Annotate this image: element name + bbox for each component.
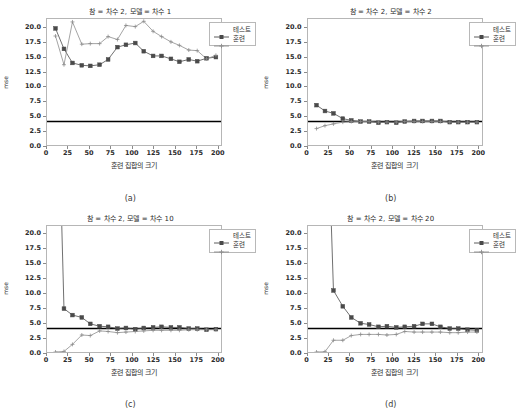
- x-tick-mark: [218, 353, 219, 356]
- x-tick-label: 50: [84, 149, 93, 157]
- x-tick-label: 25: [63, 356, 72, 364]
- plot-svg-c: [47, 226, 221, 352]
- y-tick-label: 20.0: [261, 23, 302, 31]
- x-tick-mark: [153, 146, 154, 149]
- x-tick-label: 200: [211, 149, 225, 157]
- x-tick-mark: [392, 146, 393, 149]
- y-tick-label: 20.0: [261, 229, 302, 237]
- panel-title-c: 참 = 차수 2, 모델 = 차수 10: [0, 213, 261, 223]
- x-tick-label: 0: [304, 356, 309, 364]
- panel-caption-c: (c): [0, 400, 261, 409]
- y-tick-label: 17.5: [261, 38, 302, 46]
- y-tick-label: 17.5: [261, 244, 302, 252]
- x-tick-mark: [196, 146, 197, 149]
- y-tick-label: 10.0: [261, 289, 302, 297]
- x-tick-mark: [67, 146, 68, 149]
- y-tick-label: 15.0: [0, 259, 41, 267]
- panel-title-a: 참 = 차수 2, 모델 = 차수 1: [0, 6, 261, 16]
- x-tick-label: 25: [323, 356, 332, 364]
- y-tick-label: 2.5: [261, 127, 302, 135]
- x-tick-mark: [153, 353, 154, 356]
- x-tick-label: 175: [189, 356, 203, 364]
- legend-entry-train: 훈련: [473, 34, 511, 43]
- x-tick-label: 100: [125, 149, 139, 157]
- y-tick-label: 12.5: [0, 68, 41, 76]
- x-tick-label: 0: [44, 356, 49, 364]
- plot-area-d: [307, 225, 483, 353]
- x-tick-mark: [478, 146, 479, 149]
- legend-label-train: 훈련: [493, 241, 505, 249]
- legend-c: 테스트 훈련: [209, 229, 256, 253]
- legend-label-test: 테스트: [233, 232, 251, 240]
- x-tick-mark: [110, 146, 111, 149]
- x-tick-mark: [46, 353, 47, 356]
- y-tick-label: 5.0: [261, 112, 302, 120]
- legend-marker-train-icon: [213, 35, 230, 43]
- x-tick-mark: [414, 353, 415, 356]
- legend-marker-train-icon: [473, 35, 490, 43]
- y-tick-label: 17.5: [0, 244, 41, 252]
- x-tick-label: 25: [323, 149, 332, 157]
- legend-a: 테스트 훈련: [209, 22, 256, 46]
- y-tick-label: 15.0: [261, 259, 302, 267]
- y-tick-label: 15.0: [0, 53, 41, 61]
- y-tick-label: 2.5: [261, 334, 302, 342]
- x-tick-label: 200: [211, 356, 225, 364]
- x-tick-label: 75: [106, 149, 115, 157]
- legend-marker-test-icon: [213, 232, 230, 240]
- legend-entry-train: 훈련: [473, 241, 511, 250]
- y-tick-label: 7.5: [261, 304, 302, 312]
- x-tick-mark: [435, 146, 436, 149]
- x-tick-label: 200: [471, 149, 485, 157]
- plot-area-c: [46, 225, 222, 353]
- chart-panel-b: 참 = 차수 2, 모델 = 차수 2mse훈련 집합의 크기0.02.55.0…: [261, 0, 521, 207]
- y-tick-label: 20.0: [0, 23, 41, 31]
- legend-marker-train-icon: [213, 241, 230, 249]
- legend-marker-test-icon: [213, 26, 230, 34]
- x-tick-label: 100: [386, 149, 400, 157]
- x-tick-mark: [175, 353, 176, 356]
- x-tick-label: 50: [345, 149, 354, 157]
- panel-caption-d: (d): [261, 400, 521, 409]
- chart-panel-a: 참 = 차수 2, 모델 = 차수 1mse훈련 집합의 크기0.02.55.0…: [0, 0, 261, 207]
- y-tick-label: 10.0: [261, 82, 302, 90]
- panel-caption-a: (a): [0, 194, 261, 203]
- legend-entry-test: 테스트: [473, 232, 511, 241]
- x-tick-label: 75: [366, 149, 375, 157]
- legend-marker-test-icon: [473, 26, 490, 34]
- legend-label-train: 훈련: [233, 35, 245, 43]
- legend-entry-test: 테스트: [213, 25, 251, 34]
- chart-panel-d: 참 = 차수 2, 모델 = 차수 20mse훈련 집합의 크기0.02.55.…: [261, 207, 521, 413]
- x-tick-label: 125: [147, 149, 161, 157]
- x-tick-mark: [46, 146, 47, 149]
- x-tick-label: 125: [407, 149, 421, 157]
- plot-area-b: [307, 18, 483, 146]
- plot-svg-d: [308, 226, 482, 352]
- legend-label-test: 테스트: [493, 26, 511, 34]
- y-tick-label: 12.5: [261, 274, 302, 282]
- legend-label-train: 훈련: [233, 241, 245, 249]
- x-tick-label: 75: [106, 356, 115, 364]
- x-tick-label: 175: [450, 356, 464, 364]
- x-tick-label: 50: [84, 356, 93, 364]
- panel-title-d: 참 = 차수 2, 모델 = 차수 20: [261, 213, 521, 223]
- x-tick-label: 150: [168, 149, 182, 157]
- chart-panel-c: 참 = 차수 2, 모델 = 차수 10mse훈련 집합의 크기0.02.55.…: [0, 207, 261, 413]
- legend-entry-test: 테스트: [473, 25, 511, 34]
- x-tick-label: 200: [471, 356, 485, 364]
- y-tick-label: 15.0: [261, 53, 302, 61]
- x-tick-mark: [328, 353, 329, 356]
- x-tick-label: 150: [428, 149, 442, 157]
- legend-label-test: 테스트: [493, 232, 511, 240]
- y-tick-label: 2.5: [0, 127, 41, 135]
- x-tick-mark: [175, 146, 176, 149]
- x-axis-label-a: 훈련 집합의 크기: [46, 160, 222, 170]
- x-tick-label: 50: [345, 356, 354, 364]
- x-axis-label-b: 훈련 집합의 크기: [307, 160, 483, 170]
- x-tick-mark: [457, 146, 458, 149]
- x-tick-mark: [67, 353, 68, 356]
- y-tick-label: 7.5: [261, 97, 302, 105]
- y-tick-label: 5.0: [261, 319, 302, 327]
- x-tick-mark: [371, 146, 372, 149]
- y-tick-label: 0.0: [261, 142, 302, 150]
